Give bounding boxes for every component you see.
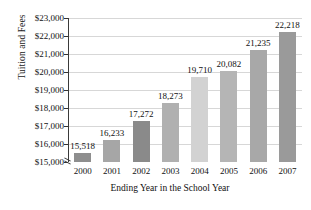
y-axis-tick-labels: $15,000$16,000$17,000$18,000$19,000$20,0… [16,0,64,210]
y-axis-tick-label: $22,000 [35,31,64,41]
x-axis-title: Ending Year in the School Year [45,183,295,193]
x-axis-tick-label: 2002 [132,166,150,176]
y-axis-tick-label: $23,000 [35,13,64,23]
x-axis-tick-label: 2004 [191,166,209,176]
bar-value-label: 19,710 [187,65,212,75]
bar-chart: Tuition and Fees $15,000$16,000$17,000$1… [0,0,311,210]
y-axis-tick-label: $16,000 [35,139,64,149]
x-axis-tick-label: 2000 [74,166,92,176]
bar [220,71,237,162]
bar-value-label: 18,273 [158,91,183,101]
bar-value-label: 20,082 [217,59,242,69]
x-axis-tick-label: 2001 [103,166,121,176]
bar [162,103,179,162]
y-axis-tick-label: $15,000 [35,157,64,167]
y-axis-tick-label: $21,000 [35,49,64,59]
bar [250,50,267,162]
y-axis-tick-label: $20,000 [35,67,64,77]
y-axis-tick-label: $18,000 [35,103,64,113]
bar-value-label: 17,272 [129,109,154,119]
bar [133,121,150,162]
y-axis-tick-label: $17,000 [35,121,64,131]
bar-value-label: 16,233 [100,128,125,138]
x-axis-tick-label: 2005 [220,166,238,176]
x-axis-tick-label: 2003 [161,166,179,176]
bars: 15,51816,23317,27218,27319,71020,08221,2… [68,18,302,162]
x-axis-tick-labels: 20002001200220032004200520062007 [68,166,302,180]
y-axis-tick-label: $19,000 [35,85,64,95]
bar [74,153,91,162]
x-axis-tick-label: 2006 [249,166,267,176]
bar [103,140,120,162]
bar-value-label: 22,218 [275,20,300,30]
plot-area: 15,51816,23317,27218,27319,71020,08221,2… [68,18,302,162]
bar-value-label: 15,518 [70,141,95,151]
x-axis-tick-label: 2007 [278,166,296,176]
bar [191,77,208,162]
bar-value-label: 21,235 [246,38,271,48]
bar [279,32,296,162]
